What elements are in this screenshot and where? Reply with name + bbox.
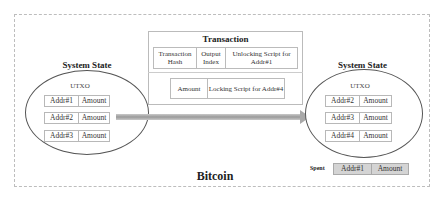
right-utxo-row-3: Addr#4 Amount [325,130,392,142]
amount-cell: Amount [360,113,391,123]
locking-script-cell: Locking Script for Addr#4 [208,79,284,98]
right-utxo-row-2: Addr#3 Amount [325,112,392,124]
spent-address-cell: Addr#1 [334,164,372,174]
transaction-inputs: Transaction Hash Output Index Unlocking … [153,47,298,69]
left-utxo-row-1: Addr#1 Amount [44,95,110,107]
amount-cell: Amount [360,96,391,106]
transaction-outputs: Amount Locking Script for Addr#4 [170,78,285,99]
unlocking-script-cell: Unlocking Script for Addr#1 [226,48,297,68]
output-index-cell: Output Index [197,48,226,68]
transaction-title: Transaction [148,34,303,44]
address-cell: Addr#1 [45,96,79,106]
spent-label: Spent [310,165,325,171]
output-amount-cell: Amount [171,79,208,98]
amount-cell: Amount [79,96,109,106]
transaction-hash-cell: Transaction Hash [154,48,197,68]
amount-cell: Amount [79,131,109,141]
spent-row: Addr#1 Amount [333,163,409,175]
left-utxo-row-3: Addr#3 Amount [44,130,110,142]
diagram-title: Bitcoin [180,169,250,184]
amount-cell: Amount [360,131,391,141]
address-cell: Addr#3 [326,113,360,123]
right-utxo-row-1: Addr#2 Amount [325,95,392,107]
address-cell: Addr#3 [45,131,79,141]
transition-arrow-shaft [116,114,304,120]
transaction-divider [148,72,303,73]
address-cell: Addr#2 [45,113,79,123]
address-cell: Addr#2 [326,96,360,106]
left-utxo-row-2: Addr#2 Amount [44,112,110,124]
right-utxo-label: UTXO [330,82,390,90]
amount-cell: Amount [79,113,109,123]
spent-amount-cell: Amount [372,164,408,174]
left-utxo-label: UTXO [50,82,110,90]
address-cell: Addr#4 [326,131,360,141]
left-system-state-title: System State [22,60,152,70]
